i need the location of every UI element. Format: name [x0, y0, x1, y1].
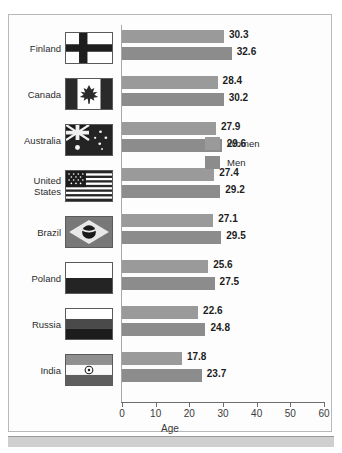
flag-poland-icon — [65, 262, 113, 294]
x-tick — [189, 402, 190, 407]
bottom-strip — [8, 436, 334, 447]
legend-swatch-men-icon — [205, 156, 220, 169]
bar-value-men: 30.2 — [229, 92, 248, 103]
table-row: Poland 25.627.5 — [9, 255, 331, 301]
bar-women — [122, 260, 208, 273]
x-tick-label: 20 — [184, 408, 195, 419]
bar-women — [122, 306, 198, 319]
table-row: Russia 22.624.8 — [9, 301, 331, 347]
bar-men — [122, 231, 221, 244]
bar-value-women: 25.6 — [213, 259, 232, 270]
x-tick — [122, 402, 123, 407]
table-row: India 17.823.7 — [9, 347, 331, 393]
bar-value-men: 32.6 — [237, 46, 256, 57]
country-label: Canada — [13, 89, 61, 100]
country-label: United States — [13, 175, 61, 197]
x-tick — [257, 402, 258, 407]
country-label: Russia — [13, 319, 61, 330]
legend-label-women: Women — [227, 138, 260, 149]
legend-swatch-women-icon — [205, 137, 220, 150]
flag-united-states-icon — [65, 170, 113, 202]
flag-brazil-icon — [65, 216, 113, 248]
x-tick-label: 10 — [150, 408, 161, 419]
legend-item-men: Men — [205, 156, 260, 169]
legend-label-men: Men — [227, 157, 245, 168]
x-tick — [290, 402, 291, 407]
x-tick-label: 50 — [285, 408, 296, 419]
bar-value-women: 27.1 — [218, 213, 237, 224]
plot-area: Finland 30.332.6Canada 28.430.2Australia — [9, 15, 331, 431]
x-tick — [324, 402, 325, 407]
x-tick — [223, 402, 224, 407]
table-row: Brazil 27.129.5 — [9, 209, 331, 255]
x-tick-label: 40 — [251, 408, 262, 419]
bar-women — [122, 214, 213, 227]
bar-women — [122, 76, 218, 89]
flag-australia-icon — [65, 124, 113, 156]
bar-women — [122, 168, 214, 181]
x-tick — [156, 402, 157, 407]
x-tick-label: 0 — [119, 408, 125, 419]
country-label: Brazil — [13, 227, 61, 238]
country-label: India — [13, 365, 61, 376]
bar-men — [122, 185, 220, 198]
bar-men — [122, 369, 202, 382]
bar-women — [122, 352, 182, 365]
bar-value-women: 22.6 — [203, 305, 222, 316]
chart-figure: Finland 30.332.6Canada 28.430.2Australia — [8, 14, 332, 432]
table-row: Canada 28.430.2 — [9, 71, 331, 117]
table-row: Finland 30.332.6 — [9, 25, 331, 71]
flag-russia-icon — [65, 308, 113, 340]
x-tick-label: 30 — [217, 408, 228, 419]
bar-value-men: 23.7 — [207, 368, 226, 379]
x-axis-title: Age — [9, 423, 331, 434]
table-row: Australia 27.929.6 — [9, 117, 331, 163]
bar-value-women: 27.9 — [221, 121, 240, 132]
bar-men — [122, 323, 205, 336]
bar-men — [122, 93, 224, 106]
bar-value-women: 30.3 — [229, 29, 248, 40]
country-label: Poland — [13, 273, 61, 284]
chart-legend: Women Men — [205, 137, 260, 175]
country-label: Australia — [13, 135, 61, 146]
legend-item-women: Women — [205, 137, 260, 150]
bar-men — [122, 277, 215, 290]
x-tick-label: 60 — [318, 408, 329, 419]
bar-men — [122, 47, 232, 60]
bar-women — [122, 122, 216, 135]
bar-value-men: 29.5 — [226, 230, 245, 241]
bar-value-women: 17.8 — [187, 351, 206, 362]
flag-india-icon — [65, 354, 113, 386]
flag-canada-icon — [65, 78, 113, 110]
bar-value-women: 28.4 — [223, 75, 242, 86]
table-row: United States 27.429.2 — [9, 163, 331, 209]
bar-value-men: 29.2 — [225, 184, 244, 195]
bar-value-men: 24.8 — [210, 322, 229, 333]
bar-value-men: 27.5 — [220, 276, 239, 287]
bar-women — [122, 30, 224, 43]
flag-finland-icon — [65, 32, 113, 64]
country-label: Finland — [13, 43, 61, 54]
